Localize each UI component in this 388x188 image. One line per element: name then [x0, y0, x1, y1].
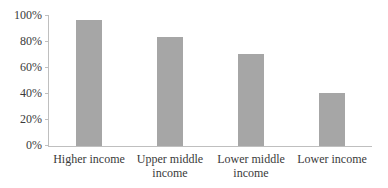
- bar-lower-middle-income: [238, 54, 264, 146]
- x-label-lower-middle-income: Lower middle income: [206, 152, 296, 180]
- x-label-text: Lower income: [297, 152, 367, 166]
- x-label-text: income: [233, 166, 268, 180]
- y-tick-label: 40%: [20, 87, 42, 99]
- bar-chart: 100% 80% 60% 40% 20% 0% Higher income Up…: [0, 0, 388, 188]
- y-tick: [45, 145, 49, 146]
- x-label-higher-income: Higher income: [44, 152, 134, 166]
- x-label-text: Higher income: [53, 152, 125, 166]
- x-axis: [48, 146, 372, 147]
- x-label-text: Upper middle: [137, 152, 203, 166]
- x-label-upper-middle-income: Upper middle income: [125, 152, 215, 180]
- y-tick: [45, 93, 49, 94]
- bar-upper-middle-income: [157, 37, 183, 146]
- y-tick: [45, 119, 49, 120]
- x-label-lower-income: Lower income: [287, 152, 377, 166]
- x-label-text: Lower middle: [217, 152, 285, 166]
- y-axis: [48, 15, 49, 146]
- x-label-text: income: [152, 166, 187, 180]
- y-tick: [45, 67, 49, 68]
- y-tick: [45, 41, 49, 42]
- bar-higher-income: [76, 20, 102, 146]
- y-tick-label: 20%: [20, 113, 42, 125]
- bar-lower-income: [319, 93, 345, 146]
- y-tick-label: 100%: [14, 9, 42, 21]
- y-tick: [45, 15, 49, 16]
- y-tick-label: 60%: [20, 61, 42, 73]
- y-tick-label: 0%: [26, 139, 42, 151]
- y-tick-label: 80%: [20, 35, 42, 47]
